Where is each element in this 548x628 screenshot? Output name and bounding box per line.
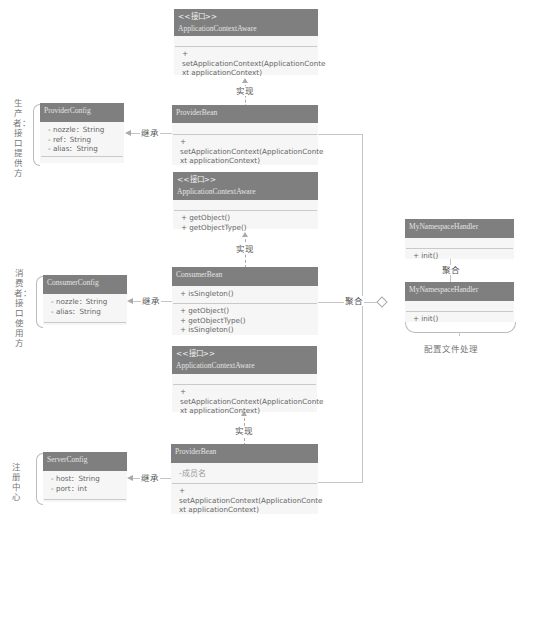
config-brace <box>405 322 516 333</box>
method-line: xt applicationContext) <box>180 156 310 166</box>
producer-group-label: 生产者：接口提供方 <box>13 98 23 178</box>
class-my-namespace-handler-1[interactable]: MyNamespaceHandler + init() <box>405 219 514 259</box>
class-name: ProviderConfig <box>44 105 120 117</box>
realize-label-3: 实现 <box>234 426 254 436</box>
inherit-arrow-3 <box>127 475 133 481</box>
method-line: + <box>180 387 309 397</box>
field-line: - alias：String <box>51 307 119 317</box>
consumer-brace <box>36 276 43 328</box>
stereotype: <<接口>> <box>176 348 313 360</box>
class-application-context-aware-2[interactable]: <<接口>> ApplicationContextAware + getObje… <box>173 172 318 229</box>
method-line: + getObjectType() <box>181 223 310 233</box>
class-consumer-config[interactable]: ConsumerConfig - nozzle：String - alias：S… <box>43 275 127 325</box>
field-line: - nozzle：String <box>51 297 119 307</box>
realize-label-2: 实现 <box>235 244 255 254</box>
registry-group-label: 注册中心 <box>11 462 21 502</box>
inherit-arrow-1 <box>125 130 131 136</box>
class-name: ConsumerBean <box>176 269 314 281</box>
class-provider-config[interactable]: ProviderConfig - nozzle：String - ref：Str… <box>40 103 124 163</box>
class-application-context-aware-3[interactable]: <<接口>> ApplicationContextAware + setAppl… <box>172 346 317 412</box>
method-line: + getObject() <box>181 213 310 223</box>
aggregate-bus-top <box>318 134 363 135</box>
method-line: xt applicationContext) <box>182 68 310 78</box>
inherit-label-3: 继承 <box>140 473 160 483</box>
method-line: + <box>182 49 310 59</box>
aggregate-label: 聚合 <box>344 296 364 306</box>
aggregate-diamond <box>376 296 387 307</box>
field-line: - ref：String <box>48 135 116 145</box>
field-line: -成员名 <box>179 469 310 479</box>
handler-aggregate-label: 聚合 <box>441 265 461 275</box>
producer-brace <box>33 104 40 166</box>
class-application-context-aware-1[interactable]: <<接口>> ApplicationContextAware + setAppl… <box>174 9 318 75</box>
inherit-arrow-2 <box>127 298 133 304</box>
config-group-label: 配置文件处理 <box>424 342 478 354</box>
class-name: ProviderBean <box>175 446 314 458</box>
field-line: - port：int <box>51 484 119 494</box>
class-consumer-bean[interactable]: ConsumerBean + isSingleton() + getObject… <box>172 267 318 335</box>
method-line: + getObject() <box>180 306 310 316</box>
class-name: ProviderBean <box>176 107 314 119</box>
method-line: setApplicationContext(ApplicationConte <box>180 397 309 407</box>
class-name: ApplicationContextAware <box>178 23 314 35</box>
consumer-group-label: 消费者：接口使用方 <box>14 268 24 348</box>
method-line: + isSingleton() <box>180 325 310 335</box>
method-line: xt applicationContext) <box>179 505 310 515</box>
class-provider-bean-2[interactable]: ProviderBean -成员名 + setApplicationContex… <box>171 444 318 514</box>
method-line: + getObjectType() <box>180 316 310 326</box>
class-name: MyNamespaceHandler <box>409 221 510 233</box>
method-line: setApplicationContext(ApplicationConte <box>182 59 310 69</box>
method-line: xt applicationContext) <box>180 406 309 416</box>
stereotype: <<接口>> <box>178 11 314 23</box>
inherit-label-2: 继承 <box>141 296 161 306</box>
method-line: + <box>179 486 310 496</box>
method-line: + init() <box>413 251 506 261</box>
registry-brace <box>36 453 43 505</box>
config-brace-tick <box>459 332 460 336</box>
class-server-config[interactable]: ServerConfig - host：String - port：int <box>43 452 127 502</box>
class-name: ApplicationContextAware <box>177 186 314 198</box>
class-name: MyNamespaceHandler <box>409 284 510 296</box>
field-line: - host：String <box>51 474 119 484</box>
class-name: ApplicationContextAware <box>176 360 313 372</box>
method-line: setApplicationContext(ApplicationConte <box>179 496 310 506</box>
aggregate-bus-bottom <box>318 482 363 483</box>
class-name: ConsumerConfig <box>47 277 123 289</box>
method-line: + <box>180 137 310 147</box>
field-line: - alias：String <box>48 144 116 154</box>
method-line: setApplicationContext(ApplicationConte <box>180 147 310 157</box>
inherit-label-1: 继承 <box>140 128 160 138</box>
aggregate-bus-vertical <box>362 134 363 482</box>
class-provider-bean-1[interactable]: ProviderBean + setApplicationContext(App… <box>172 105 318 165</box>
class-name: ServerConfig <box>47 454 123 466</box>
stereotype: <<接口>> <box>177 174 314 186</box>
class-my-namespace-handler-2[interactable]: MyNamespaceHandler + init() <box>405 282 514 322</box>
field-line: + isSingleton() <box>180 289 310 299</box>
field-line: - nozzle：String <box>48 125 116 135</box>
realize-label-1: 实现 <box>235 86 255 96</box>
